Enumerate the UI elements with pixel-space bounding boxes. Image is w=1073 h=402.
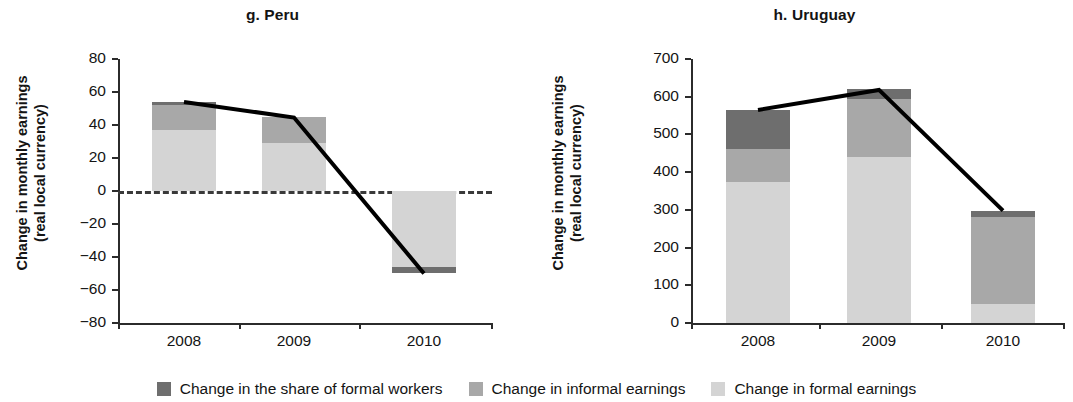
plot-area-uruguay: 7006005004003002001000200820092010 [536, 0, 1073, 360]
legend-item-informal: Change in informal earnings [469, 380, 686, 398]
chart-panel-uruguay: h. Uruguay Change in monthly earnings (r… [536, 0, 1073, 360]
legend-swatch-formal [711, 382, 725, 396]
total-change-line-series [536, 0, 1073, 360]
chart-legend: Change in the share of formal workers Ch… [0, 380, 1073, 398]
legend-label-formal: Change in formal earnings [734, 380, 916, 398]
plot-area-peru: 806040200−20−40−60−80200820092010 [0, 0, 537, 360]
chart-panel-peru: g. Peru Change in monthly earnings (real… [0, 0, 537, 360]
legend-item-formal: Change in formal earnings [711, 380, 916, 398]
legend-label-share: Change in the share of formal workers [180, 380, 443, 398]
legend-item-share: Change in the share of formal workers [157, 380, 443, 398]
total-change-line-series [0, 0, 537, 360]
legend-swatch-informal [469, 382, 483, 396]
legend-label-informal: Change in informal earnings [492, 380, 686, 398]
legend-swatch-share [157, 382, 171, 396]
